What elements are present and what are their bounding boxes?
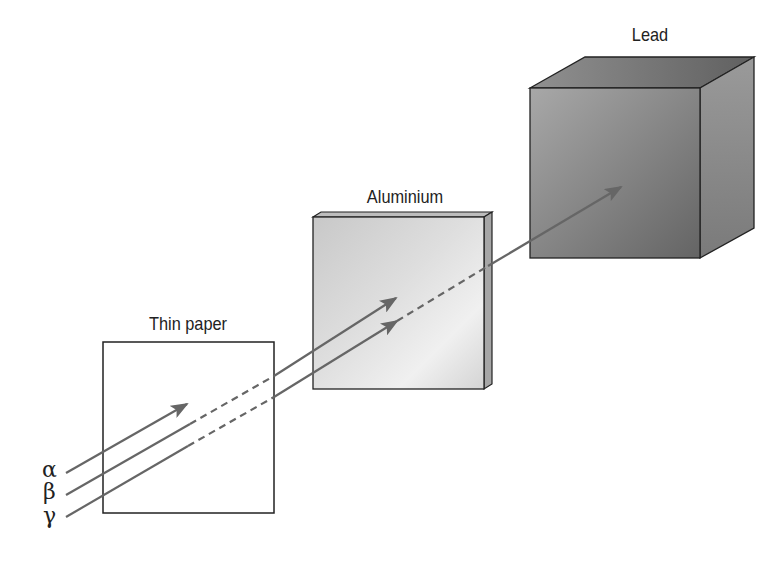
thin-paper-label: Thin paper — [149, 313, 227, 335]
gamma-symbol: γ — [43, 505, 56, 527]
aluminium-barrier — [313, 212, 492, 389]
beta-symbol: β — [43, 481, 56, 503]
diagram-canvas — [0, 0, 776, 576]
lead-label: Lead — [632, 24, 668, 46]
aluminium-label: Aluminium — [367, 186, 443, 208]
thin-paper-barrier — [103, 342, 274, 513]
lead-cube-barrier — [530, 57, 754, 258]
radiation-penetration-diagram: Thin paper Aluminium Lead α β γ — [0, 0, 776, 576]
alpha-symbol: α — [42, 459, 57, 481]
